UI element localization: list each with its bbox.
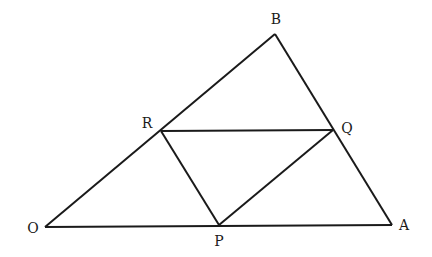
segment-pq	[219, 130, 333, 225]
segment-rp	[161, 131, 219, 225]
segments	[45, 34, 392, 227]
label-a: A	[398, 217, 410, 233]
segment-rq	[161, 130, 333, 131]
label-r: R	[142, 115, 153, 131]
label-b: B	[271, 11, 281, 27]
triangle-diagram: O A B P Q R	[0, 0, 432, 257]
label-p: P	[214, 233, 223, 249]
diagram-canvas: O A B P Q R	[0, 0, 432, 257]
label-q: Q	[341, 120, 352, 136]
label-o: O	[27, 220, 38, 236]
